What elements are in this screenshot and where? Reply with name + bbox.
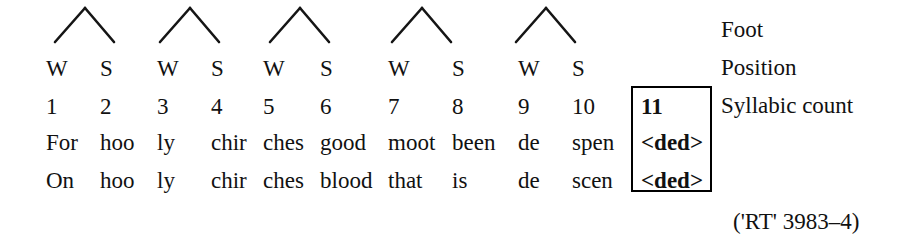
line-a-cell-6: good: [320, 131, 366, 154]
foot-tree-branch-3-weak: [270, 8, 300, 42]
line-b-cell-11: <ded>: [641, 169, 703, 192]
line-a-cell-2: hoo: [100, 131, 135, 154]
foot-tree-branch-1-weak: [55, 8, 85, 42]
side-label-foot: Foot: [721, 18, 763, 41]
side-label-syllabic-count: Syllabic count: [721, 94, 853, 117]
strength-cell-2: S: [100, 57, 113, 80]
line-b-cell-4: chir: [211, 169, 247, 192]
position-cell-10: 10: [572, 95, 595, 118]
line-b-cell-3: ly: [157, 169, 175, 192]
line-b-cell-7: that: [388, 169, 423, 192]
foot-tree-branch-4-strong: [422, 8, 451, 42]
side-label-position: Position: [721, 56, 796, 79]
strength-cell-6: S: [320, 57, 333, 80]
foot-tree-branch-4-weak: [392, 8, 422, 42]
foot-tree-branch-5-weak: [516, 8, 546, 42]
line-a-cell-4: chir: [211, 131, 247, 154]
foot-tree-branch-1-strong: [85, 8, 114, 42]
strength-cell-9: W: [518, 57, 540, 80]
line-a-cell-7: moot: [388, 131, 435, 154]
strength-cell-5: W: [263, 57, 285, 80]
position-cell-2: 2: [100, 95, 112, 118]
position-cell-11: 11: [641, 95, 663, 118]
line-a-cell-1: For: [46, 131, 78, 154]
strength-cell-8: S: [452, 57, 465, 80]
position-cell-6: 6: [320, 95, 332, 118]
position-cell-9: 9: [518, 95, 530, 118]
source-citation: ('RT' 3983–4): [733, 210, 859, 233]
position-cell-3: 3: [157, 95, 169, 118]
strength-cell-4: S: [211, 57, 224, 80]
line-a-cell-10: spen: [572, 131, 614, 154]
foot-tree-branch-2-weak: [160, 8, 190, 42]
position-cell-5: 5: [263, 95, 275, 118]
line-a-cell-5: ches: [263, 131, 304, 154]
strength-cell-10: S: [572, 57, 585, 80]
line-a-cell-11: <ded>: [641, 131, 703, 154]
line-a-cell-8: been: [452, 131, 495, 154]
line-a-cell-3: ly: [157, 131, 175, 154]
line-b-cell-1: On: [46, 169, 74, 192]
metrical-scansion-figure: WSWSWSWSWS 1234567891011 Forhoolychirche…: [0, 0, 911, 247]
position-cell-1: 1: [46, 95, 58, 118]
strength-cell-1: W: [46, 57, 68, 80]
position-cell-4: 4: [211, 95, 223, 118]
line-b-cell-6: blood: [320, 169, 372, 192]
line-b-cell-8: is: [452, 169, 467, 192]
foot-tree-branch-5-strong: [546, 8, 575, 42]
position-cell-8: 8: [452, 95, 464, 118]
line-b-cell-5: ches: [263, 169, 304, 192]
position-cell-7: 7: [388, 95, 400, 118]
strength-cell-3: W: [157, 57, 179, 80]
strength-cell-7: W: [388, 57, 410, 80]
line-b-cell-10: scen: [572, 169, 613, 192]
foot-tree-branch-3-strong: [300, 8, 329, 42]
line-b-cell-2: hoo: [100, 169, 135, 192]
line-a-cell-9: de: [518, 131, 540, 154]
line-b-cell-9: de: [518, 169, 540, 192]
foot-tree-branch-2-strong: [190, 8, 219, 42]
